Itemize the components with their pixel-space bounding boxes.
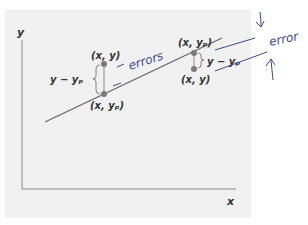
errors-annotation: errors	[127, 48, 165, 72]
error-tick-lower	[113, 83, 121, 86]
observed-label-right: (x, y)	[181, 74, 210, 85]
error-line-upper	[215, 38, 255, 50]
observed-point-right	[191, 66, 197, 72]
observed-point-left	[101, 61, 107, 67]
brace-right	[198, 53, 204, 68]
regression-diagram: y x (x, y) (x, yₚ) y − yₚ (x, yₚ) (x, y)…	[0, 0, 308, 225]
predicted-point-left	[101, 91, 107, 97]
observed-label-left: (x, y)	[91, 50, 120, 61]
x-axis-label: x	[226, 195, 235, 208]
residual-label-left: y − yₚ	[50, 74, 83, 85]
brace-left	[93, 65, 100, 94]
residual-label-right: y − yₚ	[207, 56, 240, 67]
error-annotation: error	[268, 29, 301, 49]
arrow-down-icon	[256, 12, 264, 27]
y-axis-label: y	[17, 26, 25, 39]
predicted-point-right	[191, 50, 197, 56]
error-tick-upper	[117, 64, 124, 67]
predicted-label-left: (x, yₚ)	[90, 100, 124, 111]
predicted-label-right: (x, yₚ)	[178, 37, 212, 48]
arrow-up-icon	[266, 59, 275, 80]
